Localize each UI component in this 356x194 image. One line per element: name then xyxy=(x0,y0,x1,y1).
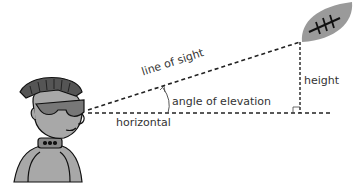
right-angle-mark xyxy=(293,107,300,113)
label-horizontal: horizontal xyxy=(116,116,171,129)
angle-arc xyxy=(163,88,169,113)
label-angle-of-elevation: angle of elevation xyxy=(172,95,271,108)
football-icon xyxy=(302,2,352,42)
punk-character-icon xyxy=(14,78,84,182)
label-height: height xyxy=(304,74,339,87)
